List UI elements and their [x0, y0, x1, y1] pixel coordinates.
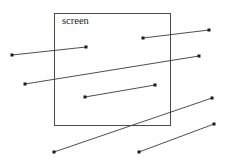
segment-4-end-endpoint[interactable]: [154, 84, 157, 87]
segment-5-start-endpoint[interactable]: [53, 151, 56, 154]
segment-2-end-endpoint[interactable]: [85, 46, 88, 49]
segment-1[interactable]: [143, 30, 209, 38]
segment-6-start-endpoint[interactable]: [138, 151, 141, 154]
segment-6[interactable]: [139, 124, 214, 152]
segment-3[interactable]: [25, 56, 199, 84]
segment-3-end-endpoint[interactable]: [198, 55, 201, 58]
segment-2-start-endpoint[interactable]: [11, 54, 14, 57]
segment-3-start-endpoint[interactable]: [24, 83, 27, 86]
segment-2[interactable]: [12, 47, 86, 55]
diagram-canvas: screen: [0, 0, 227, 168]
segment-1-start-endpoint[interactable]: [142, 37, 145, 40]
line-segments-group: [11, 29, 216, 154]
screen-label: screen: [62, 15, 90, 26]
segment-6-end-endpoint[interactable]: [213, 123, 216, 126]
segment-4[interactable]: [85, 85, 155, 97]
segment-5-end-endpoint[interactable]: [211, 97, 214, 100]
segment-1-end-endpoint[interactable]: [208, 29, 211, 32]
diagram-svg: screen: [0, 0, 227, 168]
segment-4-start-endpoint[interactable]: [84, 96, 87, 99]
